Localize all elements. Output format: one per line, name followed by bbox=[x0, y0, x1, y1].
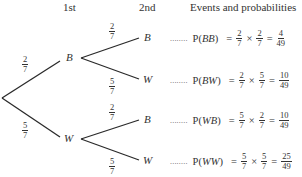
event-row-ww: ........ P(WW) = 57 × 57 = 2549 bbox=[170, 151, 292, 171]
event-row-wb: ........ P(WB) = 57 × 27 = 1049 bbox=[170, 110, 289, 130]
factor-a: 57 bbox=[241, 152, 247, 171]
header-events: Events and probabilities bbox=[190, 1, 296, 13]
factor-b: 57 bbox=[261, 152, 267, 171]
result-probability: 449 bbox=[277, 29, 286, 48]
result-probability: 2549 bbox=[281, 152, 292, 171]
factor-a: 57 bbox=[239, 111, 245, 130]
branch-w-to-b bbox=[81, 120, 139, 139]
node-level2-bw: W bbox=[143, 73, 152, 85]
prob-root-b: 2 7 bbox=[22, 55, 28, 74]
node-level2-bb: B bbox=[144, 31, 151, 43]
node-level2-ww: W bbox=[143, 154, 152, 166]
event-row-bw: ........ P(BW) = 27 × 57 = 1049 bbox=[170, 70, 289, 90]
factor-b: 27 bbox=[259, 111, 265, 130]
header-second-draw: 2nd bbox=[139, 1, 156, 13]
event-outcome: BB bbox=[202, 33, 215, 44]
branch-root-to-w bbox=[2, 98, 60, 137]
node-level2-wb: B bbox=[144, 113, 151, 125]
event-outcome: WB bbox=[202, 115, 217, 126]
factor-b: 27 bbox=[256, 29, 262, 48]
prob-b-w: 5 7 bbox=[109, 77, 115, 96]
prob-w-b: 2 7 bbox=[109, 103, 115, 122]
branch-b-to-b bbox=[81, 38, 139, 58]
event-outcome: BW bbox=[202, 75, 217, 86]
prob-root-w: 5 7 bbox=[22, 121, 28, 140]
factor-b: 57 bbox=[259, 71, 265, 90]
event-row-bb: ........ P(BB) = 27 × 27 = 449 bbox=[170, 28, 285, 48]
node-level1-b: B bbox=[66, 51, 73, 63]
result-probability: 1049 bbox=[279, 71, 290, 90]
prob-w-w: 5 7 bbox=[109, 157, 115, 176]
factor-a: 27 bbox=[239, 71, 245, 90]
prob-b-b: 2 7 bbox=[109, 22, 115, 41]
header-first-draw: 1st bbox=[63, 1, 76, 13]
event-outcome: WW bbox=[202, 156, 220, 167]
factor-a: 27 bbox=[236, 29, 242, 48]
node-level1-w: W bbox=[64, 132, 73, 144]
branch-root-to-b bbox=[2, 61, 60, 98]
result-probability: 1049 bbox=[279, 111, 290, 130]
